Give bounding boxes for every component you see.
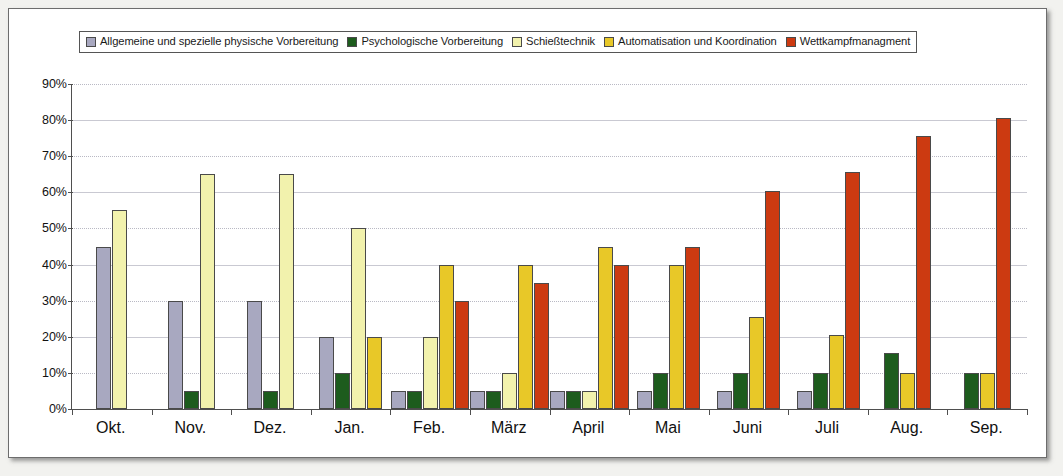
x-tick-label: April: [572, 419, 604, 437]
bar: [534, 283, 549, 409]
bar: [518, 265, 533, 409]
x-tick-mark: [550, 409, 551, 415]
y-tick-label: 70%: [42, 149, 67, 163]
bar: [845, 172, 860, 409]
x-tick-label: Feb.: [413, 419, 445, 437]
bar-group: [72, 84, 152, 409]
x-tick-mark: [947, 409, 948, 415]
x-tick-mark: [231, 409, 232, 415]
bar: [455, 301, 470, 409]
bar-group: [709, 84, 789, 409]
y-tick-label: 60%: [42, 185, 67, 199]
bar: [765, 191, 780, 409]
bar: [367, 337, 382, 409]
bar: [168, 301, 183, 409]
bar: [653, 373, 668, 409]
bar-group: [629, 84, 709, 409]
bar: [884, 353, 899, 409]
bar: [470, 391, 485, 409]
bar: [900, 373, 915, 409]
y-tick-label: 0%: [49, 402, 67, 416]
bar: [980, 373, 995, 409]
bar-group: [390, 84, 470, 409]
plot-area: [71, 84, 1027, 410]
x-tick-label: Aug.: [890, 419, 923, 437]
x-tick-mark: [1027, 409, 1028, 415]
bar-group: [152, 84, 232, 409]
bar-group: [231, 84, 311, 409]
bar-group: [947, 84, 1027, 409]
bar: [550, 391, 565, 409]
bar-group: [788, 84, 868, 409]
x-tick-mark: [868, 409, 869, 415]
screenshot-page: Allgemeine und spezielle physische Vorbe…: [0, 0, 1063, 476]
bar: [184, 391, 199, 409]
x-tick-label: Jan.: [334, 419, 364, 437]
bar: [319, 337, 334, 409]
bar: [200, 174, 215, 409]
bar: [614, 265, 629, 409]
bar: [279, 174, 294, 409]
chart-frame: Allgemeine und spezielle physische Vorbe…: [8, 8, 1047, 458]
bar: [335, 373, 350, 409]
bars-layer: [72, 84, 1027, 409]
bar: [486, 391, 501, 409]
bar: [964, 373, 979, 409]
bar: [733, 373, 748, 409]
x-tick-mark: [72, 409, 73, 415]
x-tick-mark: [709, 409, 710, 415]
bar: [829, 335, 844, 409]
x-tick-label: Nov.: [175, 419, 207, 437]
bar: [749, 317, 764, 409]
bar: [566, 391, 581, 409]
y-tick-label: 20%: [42, 330, 67, 344]
bar: [351, 228, 366, 409]
bar: [637, 391, 652, 409]
x-tick-mark: [152, 409, 153, 415]
bar-group: [868, 84, 948, 409]
y-axis: 0%10%20%30%40%50%60%70%80%90%: [23, 9, 67, 459]
bar: [112, 210, 127, 409]
y-tick-label: 10%: [42, 366, 67, 380]
y-tick-label: 80%: [42, 113, 67, 127]
bar: [391, 391, 406, 409]
x-axis: Okt.Nov.Dez.Jan.Feb.MärzAprilMaiJuniJuli…: [71, 419, 1026, 447]
bar-group: [470, 84, 550, 409]
x-tick-label: Okt.: [96, 419, 125, 437]
bar: [407, 391, 422, 409]
bar-group: [550, 84, 630, 409]
y-tick-label: 40%: [42, 258, 67, 272]
x-tick-mark: [470, 409, 471, 415]
y-tick-label: 30%: [42, 294, 67, 308]
bar: [598, 247, 613, 410]
y-tick-label: 50%: [42, 221, 67, 235]
bar: [669, 265, 684, 409]
bar-chart: 0%10%20%30%40%50%60%70%80%90% Okt.Nov.De…: [9, 9, 1048, 459]
x-tick-mark: [629, 409, 630, 415]
x-tick-label: März: [491, 419, 527, 437]
x-tick-label: Juni: [733, 419, 762, 437]
bar: [263, 391, 278, 409]
x-tick-label: Juli: [815, 419, 839, 437]
bar: [797, 391, 812, 409]
bar: [247, 301, 262, 409]
x-tick-label: Mai: [655, 419, 681, 437]
bar: [685, 247, 700, 410]
bar: [502, 373, 517, 409]
x-tick-mark: [788, 409, 789, 415]
x-tick-label: Sep.: [970, 419, 1003, 437]
bar: [717, 391, 732, 409]
bar: [96, 247, 111, 410]
bar-group: [311, 84, 391, 409]
x-tick-label: Dez.: [254, 419, 287, 437]
bar: [916, 136, 931, 409]
bar: [996, 118, 1011, 409]
bar: [813, 373, 828, 409]
x-tick-mark: [390, 409, 391, 415]
x-tick-mark: [311, 409, 312, 415]
bar: [423, 337, 438, 409]
y-tick-label: 90%: [42, 77, 67, 91]
bar: [439, 265, 454, 409]
bar: [582, 391, 597, 409]
